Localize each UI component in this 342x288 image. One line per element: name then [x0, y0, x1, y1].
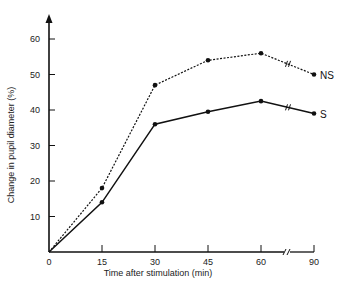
x-axis [49, 249, 314, 255]
x-tick-label: 30 [150, 257, 160, 267]
x-tick-label: 60 [256, 257, 266, 267]
x-tick-label: 0 [46, 257, 51, 267]
series-label-ns: NS [320, 70, 334, 81]
y-tick-label: 20 [30, 176, 40, 186]
y-tick-label: 50 [30, 70, 40, 80]
y-axis-arrow-icon [46, 14, 53, 23]
series-ns: NS [49, 51, 334, 252]
line-chart: 102030405060 01530456090 NSS Time after … [0, 0, 342, 288]
y-tick-label: 60 [30, 34, 40, 44]
y-axis-label: Change in pupil diameter (%) [6, 87, 16, 204]
x-tick-label: 90 [309, 257, 319, 267]
y-tick-label: 40 [30, 105, 40, 115]
x-tick-label: 15 [97, 257, 107, 267]
series-lines: NSS [49, 51, 334, 252]
y-tick-label: 30 [30, 141, 40, 151]
series-s: S [49, 99, 327, 252]
x-ticks: 01530456090 [46, 245, 319, 267]
x-axis-break-icon [283, 249, 290, 255]
y-tick-label: 10 [30, 212, 40, 222]
y-ticks: 102030405060 [30, 34, 55, 222]
series-label-s: S [320, 109, 327, 120]
x-tick-label: 45 [203, 257, 213, 267]
x-axis-label: Time after stimulation (min) [104, 268, 213, 278]
